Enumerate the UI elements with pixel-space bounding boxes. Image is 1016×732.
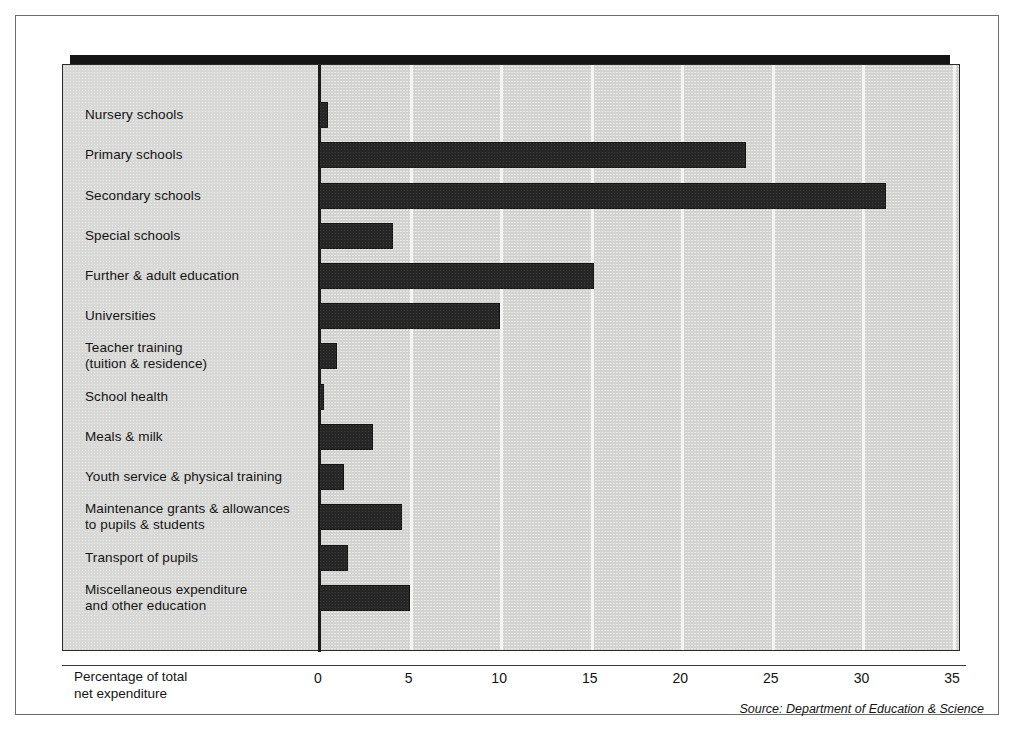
x-tick-30: 30	[854, 670, 870, 686]
bar	[319, 303, 500, 329]
bar-row: Nursery schools	[63, 95, 959, 135]
bar-texture	[319, 585, 410, 611]
x-tick-25: 25	[763, 670, 779, 686]
bar-texture	[319, 223, 393, 249]
bar-row: Special schools	[63, 216, 959, 256]
bar-row: Maintenance grants & allowances to pupil…	[63, 497, 959, 537]
category-label: Nursery schools	[85, 107, 183, 123]
x-tick-5: 5	[405, 670, 413, 686]
category-label: Youth service & physical training	[85, 469, 282, 485]
bar-texture	[319, 142, 746, 168]
bar	[319, 545, 348, 571]
bar-row: Universities	[63, 296, 959, 336]
bar-row: Secondary schools	[63, 175, 959, 215]
bar	[319, 223, 393, 249]
x-tick-20: 20	[672, 670, 688, 686]
category-label: Maintenance grants & allowances to pupil…	[85, 501, 290, 533]
category-label: Transport of pupils	[85, 550, 198, 566]
figure: Nursery schoolsPrimary schoolsSecondary …	[62, 55, 966, 665]
bar	[319, 504, 402, 530]
bar	[319, 384, 324, 410]
bar-texture	[319, 464, 344, 490]
bar-texture	[319, 343, 337, 369]
category-label: Miscellaneous expenditure and other educ…	[85, 582, 247, 614]
bar	[319, 142, 746, 168]
bar-texture	[319, 102, 328, 128]
category-label: Further & adult education	[85, 268, 239, 284]
x-axis-line	[62, 665, 966, 666]
category-label: Teacher training (tuition & residence)	[85, 340, 207, 372]
category-label: Primary schools	[85, 147, 183, 163]
bar	[319, 102, 328, 128]
bar	[319, 424, 373, 450]
bar-row: School health	[63, 377, 959, 417]
x-axis-caption-line1: Percentage of total	[74, 669, 187, 684]
category-label: Meals & milk	[85, 429, 163, 445]
category-label: Secondary schools	[85, 188, 201, 204]
chart-page: Nursery schoolsPrimary schoolsSecondary …	[0, 0, 1016, 732]
bar	[319, 263, 594, 289]
bar-texture	[319, 303, 500, 329]
x-tick-15: 15	[582, 670, 598, 686]
bar-row: Teacher training (tuition & residence)	[63, 336, 959, 376]
bar-row: Transport of pupils	[63, 538, 959, 578]
bar-texture	[319, 263, 594, 289]
x-tick-35: 35	[944, 670, 960, 686]
category-label: Universities	[85, 308, 156, 324]
bar-row: Youth service & physical training	[63, 457, 959, 497]
x-axis-caption-line2: net expenditure	[74, 686, 167, 701]
category-label: School health	[85, 389, 168, 405]
x-tick-0: 0	[314, 670, 322, 686]
bar	[319, 464, 344, 490]
bar-row: Meals & milk	[63, 417, 959, 457]
bar-texture	[319, 545, 348, 571]
bar-row: Primary schools	[63, 135, 959, 175]
bar	[319, 585, 410, 611]
bar-texture	[319, 424, 373, 450]
bar	[319, 343, 337, 369]
bar	[319, 183, 886, 209]
bar-texture	[319, 183, 886, 209]
category-label: Special schools	[85, 228, 180, 244]
bar-texture	[319, 504, 402, 530]
bar-row: Miscellaneous expenditure and other educ…	[63, 578, 959, 618]
source-note: Source: Department of Education & Scienc…	[739, 702, 984, 716]
bar-texture	[319, 384, 324, 410]
bar-row: Further & adult education	[63, 256, 959, 296]
x-tick-10: 10	[491, 670, 507, 686]
x-axis-caption: Percentage of totalnet expenditure	[74, 668, 187, 702]
chart-panel: Nursery schoolsPrimary schoolsSecondary …	[62, 64, 960, 651]
